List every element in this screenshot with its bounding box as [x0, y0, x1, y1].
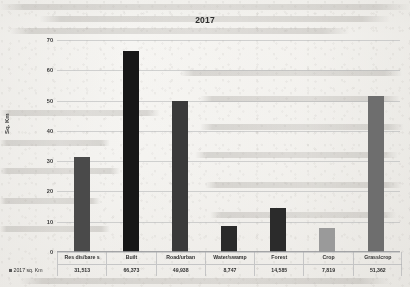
bar-slot — [204, 40, 253, 252]
bar-slot — [302, 40, 351, 252]
legend: 2017 sq. Km — [8, 252, 57, 276]
bar-slot — [351, 40, 400, 252]
value-label: 14,585 — [255, 265, 303, 277]
bar — [221, 226, 237, 252]
table-column: Crop7,819 — [303, 252, 352, 276]
table-column: Built66,373 — [106, 252, 155, 276]
bar-slot — [57, 40, 106, 252]
y-axis-tick-label: 60 — [47, 67, 53, 73]
bar-slot — [106, 40, 155, 252]
y-axis-tick-label: 40 — [47, 128, 53, 134]
table-column: Water/swamp8,747 — [205, 252, 254, 276]
category-label: Grass/crop — [354, 252, 402, 265]
value-label: 49,938 — [157, 265, 205, 277]
y-axis-tick-label: 10 — [47, 219, 53, 225]
legend-swatch-icon — [9, 269, 12, 272]
y-axis-title: Sq. Km — [4, 113, 10, 134]
category-label: Res dis/bare s — [58, 252, 106, 265]
table-column: Grass/crop51,362 — [353, 252, 402, 276]
category-label: Road/urban — [157, 252, 205, 265]
value-label: 66,373 — [107, 265, 155, 277]
data-table: 2017 sq. Km Res dis/bare s31,513Built66,… — [8, 252, 402, 276]
plot-area: 010203040506070 — [57, 40, 400, 252]
value-label: 51,362 — [354, 265, 402, 277]
table-column: Res dis/bare s31,513 — [57, 252, 106, 276]
legend-label: 2017 sq. Km — [14, 267, 43, 273]
table-column: Road/urban49,938 — [156, 252, 205, 276]
bar — [270, 208, 286, 252]
y-axis-tick-label: 20 — [47, 188, 53, 194]
bar — [74, 157, 90, 252]
bar — [172, 101, 188, 252]
bar — [319, 228, 335, 252]
table-column: Forest14,585 — [254, 252, 303, 276]
category-label: Forest — [255, 252, 303, 265]
bar — [368, 96, 384, 252]
value-label: 8,747 — [206, 265, 254, 277]
category-label: Crop — [304, 252, 352, 265]
bar-chart: 2017 Sq. Km 010203040506070 2017 sq. Km … — [0, 0, 410, 287]
category-label: Built — [107, 252, 155, 265]
y-axis-tick-label: 30 — [47, 158, 53, 164]
value-label: 7,819 — [304, 265, 352, 277]
table-columns: Res dis/bare s31,513Built66,373Road/urba… — [57, 252, 402, 276]
value-label: 31,513 — [58, 265, 106, 277]
bar-slot — [253, 40, 302, 252]
bar-slot — [155, 40, 204, 252]
y-axis-tick-label: 70 — [47, 37, 53, 43]
bar — [123, 51, 139, 252]
category-label: Water/swamp — [206, 252, 254, 265]
y-axis-tick-label: 50 — [47, 98, 53, 104]
bar-series — [57, 40, 400, 252]
chart-title: 2017 — [0, 15, 410, 25]
